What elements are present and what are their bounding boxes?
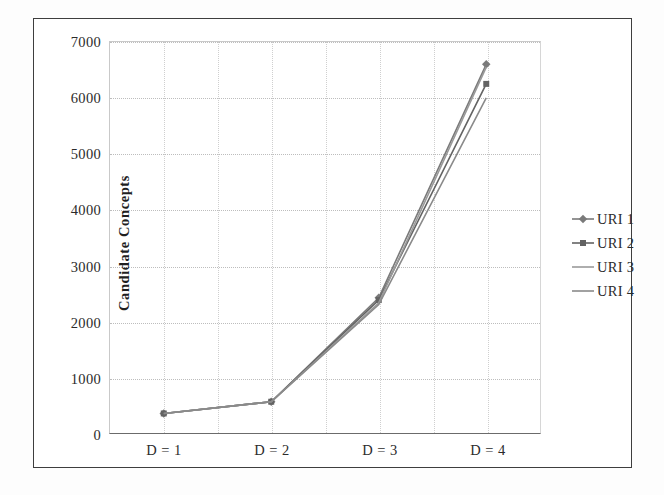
series-layer — [110, 42, 540, 433]
x-tick-label: D = 2 — [254, 442, 290, 459]
series-line — [164, 64, 487, 413]
legend-symbol-icon — [571, 260, 595, 274]
data-point-marker — [483, 81, 489, 87]
legend-item-label: URI 4 — [597, 283, 634, 300]
y-tick-label: 1000 — [71, 370, 101, 387]
legend-item-uri-4[interactable]: URI 4 — [571, 281, 634, 301]
legend-item-uri-1[interactable]: URI 1 — [571, 209, 634, 229]
legend-item-label: URI 2 — [597, 235, 634, 252]
series-line — [164, 84, 487, 414]
legend-symbol-icon — [571, 284, 595, 298]
legend-item-label: URI 1 — [597, 211, 634, 228]
y-tick-label: 4000 — [71, 202, 101, 219]
y-tick-label: 7000 — [71, 34, 101, 51]
legend-item-uri-2[interactable]: URI 2 — [571, 233, 634, 253]
legend-item-uri-3[interactable]: URI 3 — [571, 257, 634, 277]
chart-legend: URI 1URI 2URI 3URI 4 — [571, 209, 634, 301]
legend-symbol-icon — [571, 236, 595, 250]
chart-figure: Candidate Concepts 700060005000400030002… — [0, 0, 664, 495]
y-tick-label: 0 — [93, 427, 101, 444]
x-tick-label: D = 1 — [146, 442, 182, 459]
y-tick-label: 6000 — [71, 90, 101, 107]
legend-item-label: URI 3 — [597, 259, 634, 276]
plot-area: 70006000500040003000200010000 D = 1D = 2… — [109, 41, 541, 434]
figure-frame: Candidate Concepts 700060005000400030002… — [33, 18, 632, 468]
y-tick-label: 3000 — [71, 258, 101, 275]
x-tick-label: D = 3 — [362, 442, 398, 459]
series-line — [164, 98, 487, 414]
x-tick-label: D = 4 — [470, 442, 506, 459]
series-line — [164, 67, 487, 413]
y-tick-label: 5000 — [71, 146, 101, 163]
legend-symbol-icon — [571, 212, 595, 226]
y-tick-label: 2000 — [71, 314, 101, 331]
